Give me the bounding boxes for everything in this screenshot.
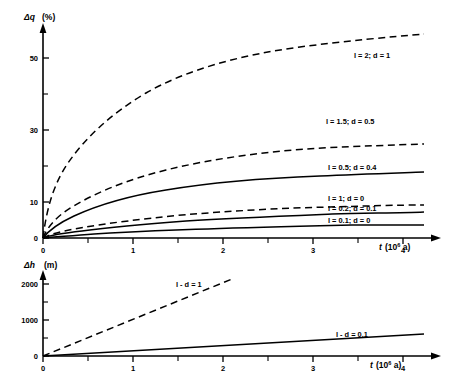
x-unit-prefix: (10 <box>385 242 398 252</box>
curve-label-lminusd-0p1: l - d = 0.1 <box>336 330 368 339</box>
x-axis-arrowhead <box>431 353 441 360</box>
delta-h-x-axis-title-symbol: t <box>370 360 374 370</box>
delta-q-x-axis-title: t (106 a) <box>379 242 411 252</box>
y-tick-label-10: 10 <box>30 198 38 207</box>
figure-container: 0 10 30 50 Δq (%) 0 1 2 3 4 t (1 <box>0 0 452 391</box>
delta-q-y-axis-title-symbol: Δq <box>23 12 36 22</box>
curve-label-l1-d0: l = 1; d = 0 <box>328 194 364 203</box>
curve-label-l1p5-d0p5: l = 1.5; d = 0.5 <box>326 117 374 126</box>
delta-h-x-axis-unit-group: (106 a) <box>376 360 402 370</box>
y-axis-arrowhead <box>40 270 47 280</box>
x-tick-label-0: 0 <box>41 364 45 373</box>
delta-q-y-axis <box>40 23 49 238</box>
delta-h-y-axis-title-unit: (m) <box>44 260 57 270</box>
delta-q-y-axis-title-unit: (%) <box>42 12 55 22</box>
delta-q-panel: 0 10 30 50 Δq (%) 0 1 2 3 4 t (1 <box>23 12 441 255</box>
x-axis-arrowhead <box>431 235 441 242</box>
curve-label-l0p5-d0p4: l = 0.5; d = 0.4 <box>328 163 377 172</box>
y-tick-label-0: 0 <box>34 234 38 243</box>
x-tick-label-0: 0 <box>41 246 45 255</box>
y-tick-label-0: 0 <box>34 352 38 361</box>
y-tick-label-30: 30 <box>30 126 38 135</box>
x-unit-suffix: a) <box>391 360 401 370</box>
curve-lminusd-1 <box>43 279 232 356</box>
y-tick-label-2000: 2000 <box>21 280 38 289</box>
curve-l0p1-d0 <box>43 225 424 238</box>
x-tick-label-1: 1 <box>131 246 135 255</box>
y-axis-arrowhead <box>40 23 47 33</box>
x-unit-prefix: (10 <box>376 360 389 370</box>
curve-label-l0p1-d0: l = 0.1; d = 0 <box>328 216 370 225</box>
delta-q-x-axis-unit-group: (106 a) <box>385 242 411 252</box>
scientific-figure: 0 10 30 50 Δq (%) 0 1 2 3 4 t (1 <box>0 0 452 391</box>
delta-h-y-axis <box>40 270 49 356</box>
y-tick-label-1000: 1000 <box>21 316 38 325</box>
x-unit-suffix: a) <box>400 242 410 252</box>
delta-h-panel: 0 1000 2000 Δh (m) 0 1 2 3 4 t (106 a) <box>21 260 441 373</box>
curve-label-l2-d1: l = 2; d = 1 <box>354 51 390 60</box>
delta-q-x-axis-title-symbol: t <box>379 242 383 252</box>
delta-h-x-axis-title: t (106 a) <box>370 360 402 370</box>
x-tick-label-2: 2 <box>221 364 225 373</box>
x-tick-label-3: 3 <box>311 364 315 373</box>
x-tick-label-4: 4 <box>401 364 406 373</box>
x-tick-label-3: 3 <box>311 246 315 255</box>
curve-label-lminusd-1: l - d = 1 <box>176 280 202 289</box>
curve-label-l0p2-d0p1: l = 0.2; d = 0.1 <box>328 204 376 213</box>
x-tick-label-2: 2 <box>221 246 225 255</box>
delta-h-y-axis-title-symbol: Δh <box>23 260 35 270</box>
y-tick-label-50: 50 <box>30 54 38 63</box>
x-tick-label-1: 1 <box>131 364 135 373</box>
